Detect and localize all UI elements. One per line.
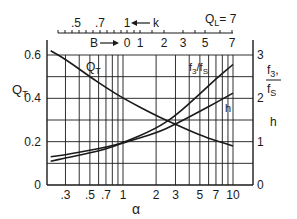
x-axis-ticks: .3.5.71235710 [60, 188, 240, 202]
svg-text:k: k [153, 16, 160, 30]
x-tick-label: 2 [153, 188, 160, 202]
left-tick-label: 0.2 [24, 135, 41, 149]
h-curve-label: h [225, 102, 231, 114]
right-tick-label: 2 [257, 91, 264, 105]
b-arrow: B [90, 36, 119, 50]
left-tick-label: 0.6 [24, 48, 41, 62]
right-tick-label: 3 [257, 48, 264, 62]
svg-text:h: h [270, 115, 277, 129]
x-tick-label: .7 [101, 188, 111, 202]
x-tick-label: .3 [60, 188, 70, 202]
x-tick-label: 10 [226, 188, 240, 202]
k-tick-label: 1 [124, 16, 131, 30]
chart: .3.5.71235710 00.20.40.6 0123 .5.7101235… [0, 0, 297, 219]
right-tick-label: 1 [257, 135, 264, 149]
curve-f3-fs [51, 65, 233, 157]
k-arrow: k [131, 16, 160, 30]
left-tick-label: 0 [34, 178, 41, 192]
right-axis-ticks: 0123 [257, 48, 264, 192]
svg-text:fS: fS [267, 82, 276, 98]
k-tick-label: .5 [71, 16, 81, 30]
b-tick-label: 5 [202, 36, 209, 50]
x-tick-label: 5 [197, 188, 204, 202]
x-tick-label: 7 [213, 188, 220, 202]
right-tick-label: 0 [257, 178, 264, 192]
x-tick-label: 1 [120, 188, 127, 202]
b-tick-label: 7 [229, 36, 236, 50]
x-axis-label: α [132, 201, 140, 217]
b-tick-label: 3 [180, 36, 187, 50]
x-tick-label: .5 [85, 188, 95, 202]
x-tick-label: 3 [172, 188, 179, 202]
curve-h [51, 93, 233, 161]
b-tick-label: 2 [161, 36, 168, 50]
svg-text:B: B [90, 36, 98, 50]
left-axis-label: QT [12, 82, 28, 99]
left-axis-ticks: 00.20.40.6 [24, 48, 41, 192]
b-tick-label: 0 [124, 36, 131, 50]
right-axis-label: f3, fS h [266, 63, 281, 129]
f3fs-curve-label: f3/fS [189, 61, 208, 76]
b-tick-label: 1 [137, 36, 144, 50]
k-tick-label: .7 [95, 16, 105, 30]
ql-annotation: QL= 7 [205, 12, 237, 28]
svg-text:f3,: f3, [267, 63, 279, 79]
